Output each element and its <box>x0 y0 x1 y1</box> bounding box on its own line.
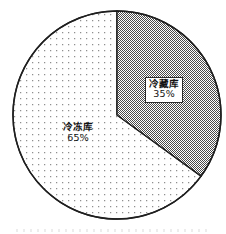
pie-chart-svg <box>0 0 226 234</box>
pie-label-frozen-value: 65% <box>52 133 104 144</box>
pie-label-chilled-value: 35% <box>149 89 179 99</box>
pie-label-chilled: 冷藏库 35% <box>145 77 183 103</box>
scan-artifact <box>16 229 212 232</box>
pie-label-frozen: 冷冻库 65% <box>52 122 104 143</box>
pie-chart: 冷藏库 35% 冷冻库 65% <box>0 0 226 234</box>
